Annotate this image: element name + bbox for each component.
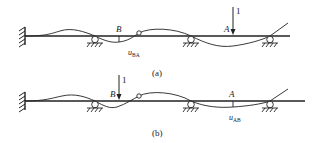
load-label: 1: [236, 6, 241, 16]
panel-a: 1 B A uBA (a): [19, 6, 290, 78]
fixed-support-icon: [19, 27, 25, 47]
hinge-icon: [137, 94, 141, 98]
point-label-A: A: [228, 89, 235, 99]
panel-b: 1 B A uAB (b): [19, 75, 305, 138]
roller-support-icon: [262, 36, 278, 47]
panel-caption: (b): [152, 128, 163, 138]
roller-support-icon: [183, 36, 199, 47]
displacement-label: uBA: [128, 48, 140, 58]
unit-load-arrow-icon: [117, 75, 122, 100]
deflection-curve: [25, 89, 288, 108]
panel-caption: (a): [152, 68, 162, 78]
hinge-icon: [137, 31, 141, 35]
roller-support-icon: [87, 101, 103, 112]
point-label-A: A: [223, 24, 230, 34]
beam-diagram-svg: 1 B A uBA (a): [0, 0, 321, 143]
roller-support-icon: [87, 36, 103, 47]
deflection-curve: [25, 23, 288, 46]
point-label-B: B: [116, 24, 122, 34]
displacement-label: uAB: [229, 113, 241, 123]
point-label-B: B: [110, 89, 116, 99]
unit-load-arrow-icon: [231, 7, 236, 35]
reciprocal-displacement-diagram: 1 B A uBA (a): [0, 0, 321, 143]
load-label: 1: [122, 75, 127, 85]
fixed-support-icon: [19, 92, 25, 112]
